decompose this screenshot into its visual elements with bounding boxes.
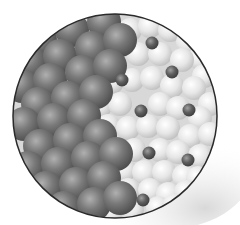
sphere-illustration-svg (0, 0, 240, 225)
dopant-sphere (135, 105, 148, 118)
dopant-sphere (166, 66, 179, 79)
dopant-sphere (143, 147, 156, 160)
illustration (0, 0, 240, 225)
dopant-sphere (146, 37, 159, 50)
dopant-sphere (183, 104, 196, 117)
dopant-sphere (116, 74, 129, 87)
dopant-sphere (182, 154, 195, 167)
dark-sphere (103, 181, 137, 215)
dopant-sphere (137, 194, 150, 207)
light-sphere (156, 116, 180, 140)
